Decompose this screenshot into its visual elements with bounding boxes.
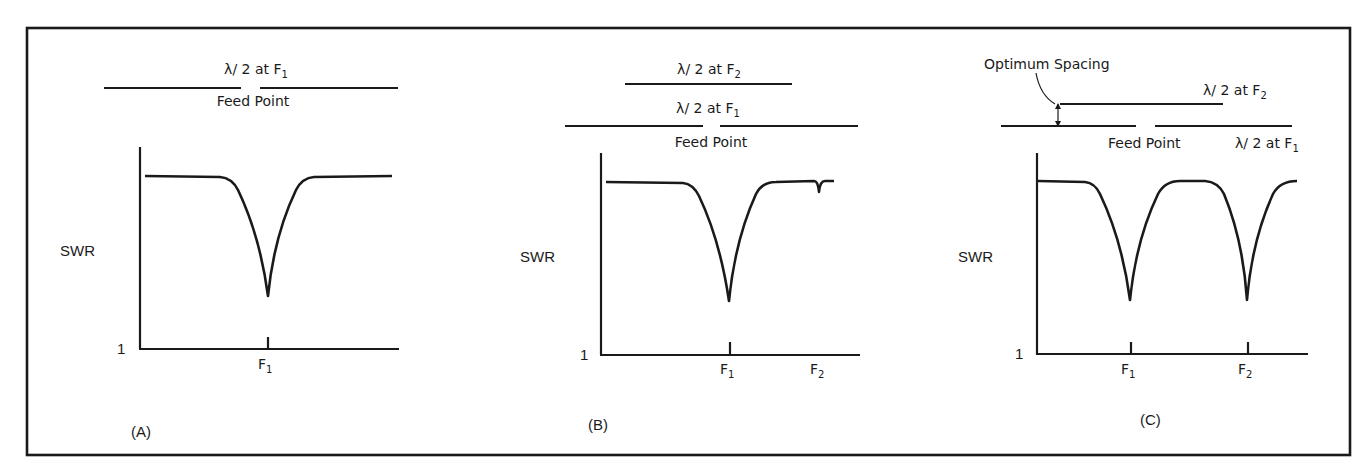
panel-b-xtick-f1-label: F1 <box>720 361 734 380</box>
panel-c-feed-point-label: Feed Point <box>1108 135 1181 151</box>
panel-c-caption: (C) <box>1140 411 1161 428</box>
panel-c: Optimum Spacing λ/ 2 at F2 Feed Point λ/… <box>958 56 1308 428</box>
panel-b-xtick-f2-label: F2 <box>810 361 824 380</box>
panel-a-dipole-f1-label: λ/ 2 at F1 <box>224 61 288 80</box>
panel-b-dipole-f1-label: λ/ 2 at F1 <box>676 100 740 119</box>
panel-c-dipole-f2-label: λ/ 2 at F2 <box>1203 82 1267 101</box>
panel-b-chart: SWR 1 F1 F2 <box>520 153 860 380</box>
panel-a-ymin-label: 1 <box>117 340 125 357</box>
panel-a-antenna: λ/ 2 at F1 Feed Point <box>104 61 398 109</box>
panel-a-chart: SWR 1 F1 <box>60 147 399 375</box>
panel-c-optimum-spacing-label: Optimum Spacing <box>984 56 1110 72</box>
panel-b: λ/ 2 at F2 λ/ 2 at F1 Feed Point SWR 1 F… <box>520 61 860 433</box>
panel-a-feed-point-label: Feed Point <box>217 93 290 109</box>
swr-figure: λ/ 2 at F1 Feed Point SWR 1 F1 (A) λ/ 2 … <box>0 0 1369 475</box>
panel-b-antenna: λ/ 2 at F2 λ/ 2 at F1 Feed Point <box>565 61 858 150</box>
panel-c-ymin-label: 1 <box>1015 345 1023 362</box>
panel-c-swr-curve <box>1038 181 1297 300</box>
panel-a: λ/ 2 at F1 Feed Point SWR 1 F1 (A) <box>60 61 399 440</box>
panel-c-dipole-f1-label: λ/ 2 at F1 <box>1235 135 1299 154</box>
panel-c-chart: SWR 1 F1 F2 <box>958 153 1308 380</box>
panel-b-swr-curve <box>606 181 834 301</box>
panel-b-dipole-f2-label: λ/ 2 at F2 <box>677 61 741 80</box>
panel-a-xtick-f1-label: F1 <box>258 356 272 375</box>
panel-a-swr-curve <box>145 176 392 296</box>
panel-b-feed-point-label: Feed Point <box>675 134 748 150</box>
panel-c-xtick-f1-label: F1 <box>1121 361 1135 380</box>
panel-c-ylabel: SWR <box>958 248 993 265</box>
panel-a-caption: (A) <box>131 423 151 440</box>
panel-b-ylabel: SWR <box>520 248 555 265</box>
panel-c-spacing-leader <box>1036 73 1055 104</box>
panel-c-xtick-f2-label: F2 <box>1238 361 1252 380</box>
panel-b-ymin-label: 1 <box>580 346 588 363</box>
panel-a-ylabel: SWR <box>60 242 95 259</box>
panel-c-antenna: Optimum Spacing λ/ 2 at F2 Feed Point λ/… <box>984 56 1299 154</box>
panel-b-caption: (B) <box>588 416 608 433</box>
